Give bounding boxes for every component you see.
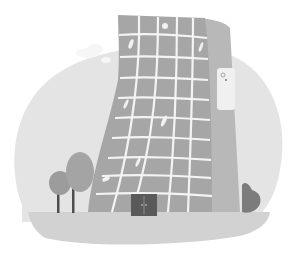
sign-panel [217,68,235,110]
ground [28,212,270,245]
skyscraper-illustration [0,0,291,263]
